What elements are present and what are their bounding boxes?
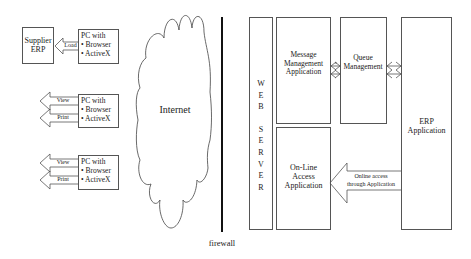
internet-label: Internet: [145, 104, 205, 116]
message-management-label: Message Management Application: [276, 51, 331, 77]
erp-application-line2: Application: [401, 126, 452, 135]
web-server-letter: S: [255, 124, 267, 136]
erp-application-line1: ERP: [401, 117, 452, 126]
online-access-line2: Access: [276, 172, 331, 181]
online-access-label: On-Line Access Application: [276, 163, 331, 191]
queue-management-line2: Management: [339, 63, 387, 72]
pc-client-3-text: PC with • Browser • ActiveX: [81, 157, 111, 184]
pc-item-browser: • Browser: [81, 105, 111, 114]
supplier-erp-line1: Supplier: [22, 36, 54, 45]
web-server-letter-gap: [255, 113, 267, 124]
pc-item-browser: • Browser: [81, 166, 111, 175]
message-management-line3: Application: [276, 68, 331, 77]
queue-management-label: Queue Management: [339, 54, 387, 71]
online-access-arrow-label: Online access through Application: [340, 173, 402, 188]
pc-client-1-text: PC with • Browser • ActiveX: [81, 31, 111, 58]
pc-title: PC with: [81, 31, 111, 40]
supplier-erp-label: Supplier ERP: [22, 36, 54, 54]
web-server-letter: W: [255, 78, 267, 90]
print-arrow-label: Print: [52, 176, 74, 182]
internet-cloud-icon: [136, 15, 211, 228]
web-server-letter: E: [255, 135, 267, 147]
web-server-letter: R: [255, 182, 267, 194]
load-arrow-label: Load: [63, 42, 78, 48]
view-arrow-label: View: [52, 97, 74, 103]
online-arrow-line1: Online access: [340, 173, 402, 181]
web-server-letter: B: [255, 101, 267, 113]
web-server-letter: R: [255, 147, 267, 159]
firewall-label: firewall: [196, 239, 248, 249]
pc-title: PC with: [81, 157, 111, 166]
pc-title: PC with: [81, 96, 111, 105]
web-server-letter: E: [255, 90, 267, 102]
supplier-erp-line2: ERP: [22, 45, 54, 54]
print-arrow-label: Print: [52, 114, 74, 120]
pc-item-browser: • Browser: [81, 40, 111, 49]
online-arrow-line2: through Application: [340, 181, 402, 189]
pc-item-activex: • ActiveX: [81, 114, 111, 123]
web-server-letter: E: [255, 170, 267, 182]
view-arrow-label: View: [52, 159, 74, 165]
pc-item-activex: • ActiveX: [81, 175, 111, 184]
online-access-line1: On-Line: [276, 163, 331, 172]
double-arrow-icon: [387, 62, 401, 78]
online-access-line3: Application: [276, 181, 331, 190]
pc-item-activex: • ActiveX: [81, 49, 111, 58]
web-server-letter: V: [255, 159, 267, 171]
pc-client-2-text: PC with • Browser • ActiveX: [81, 96, 111, 123]
web-server-label: W E B S E R V E R: [255, 78, 267, 193]
erp-application-label: ERP Application: [401, 117, 452, 135]
